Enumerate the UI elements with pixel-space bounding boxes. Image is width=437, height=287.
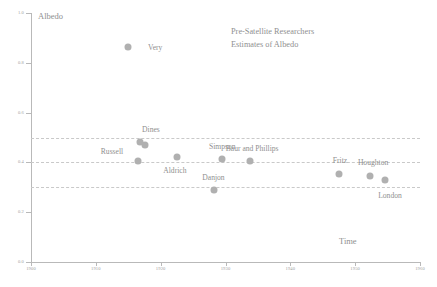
data-point-label: Very [148, 42, 162, 51]
y-tick-label: 0.6 [2, 110, 24, 115]
chart-title-line-1: Pre-Satellite Researchers [231, 26, 314, 39]
data-point-marker [381, 176, 388, 183]
x-tick-label: 1920 [141, 266, 181, 271]
data-point-label: London [378, 190, 402, 199]
y-tick [26, 212, 31, 213]
x-tick-label: 1960 [400, 266, 437, 271]
y-tick [26, 63, 31, 64]
data-point-marker [247, 158, 254, 165]
y-tick [26, 13, 31, 14]
data-point-marker [219, 155, 226, 162]
chart-title-line-2: Estimates of Albedo [231, 39, 314, 52]
data-point-label: Fritz [333, 155, 347, 164]
y-tick [26, 162, 31, 163]
data-point-marker [367, 173, 374, 180]
data-point-marker [335, 170, 342, 177]
x-tick-label: 1940 [270, 266, 310, 271]
data-point-marker [173, 154, 180, 161]
x-tick-label: 1900 [11, 266, 51, 271]
x-tick-label: 1930 [206, 266, 246, 271]
y-axis-title: Albedo [38, 11, 63, 21]
data-point-marker [211, 187, 218, 194]
y-tick-label: 0.0 [2, 259, 24, 264]
y-tick [26, 113, 31, 114]
gridline-y [31, 187, 420, 188]
y-tick-label: 0.4 [2, 159, 24, 164]
x-tick-label: 1910 [76, 266, 116, 271]
y-tick-label: 1.0 [2, 10, 24, 15]
data-point-label: Danjon [202, 173, 224, 182]
gridline-y [31, 138, 420, 139]
data-point-label: Baur and Phillips [226, 144, 279, 153]
y-tick-label: 0.2 [2, 209, 24, 214]
y-tick-label: 0.8 [2, 60, 24, 65]
data-point-marker [125, 43, 132, 50]
data-point-label: Houghton [358, 158, 388, 167]
x-tick-label: 1950 [335, 266, 375, 271]
albedo-scatter-chart: 0.00.20.40.60.81.0 190019101920193019401… [0, 0, 437, 287]
data-point-label: Aldrich [163, 166, 186, 175]
x-axis-title: Time [339, 236, 357, 246]
chart-title: Pre-Satellite Researchers Estimates of A… [231, 26, 314, 51]
data-point-marker [142, 142, 149, 149]
data-point-label: Dines [142, 125, 160, 134]
data-point-marker [134, 158, 141, 165]
data-point-label: Russell [101, 147, 123, 156]
